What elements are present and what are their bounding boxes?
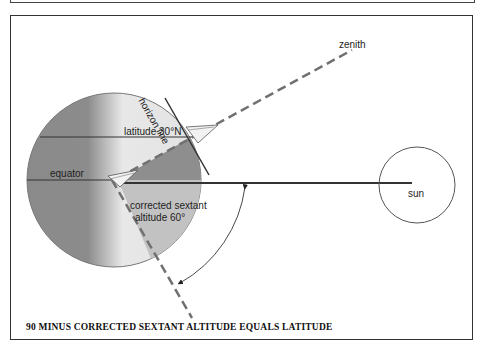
equator-label: equator <box>50 168 84 179</box>
corrected-sextant-label-line1: corrected sextant <box>130 200 207 211</box>
latitude-label: latitude 30°N <box>124 126 181 137</box>
diagram-caption: 90 MINUS CORRECTED SEXTANT ALTITUDE EQUA… <box>26 322 333 332</box>
sun <box>379 147 455 223</box>
zenith-label: zenith <box>339 39 366 50</box>
corrected-sextant-label-line2: altitude 60° <box>135 212 185 223</box>
earth <box>27 93 210 280</box>
sun-label: sun <box>408 188 424 199</box>
